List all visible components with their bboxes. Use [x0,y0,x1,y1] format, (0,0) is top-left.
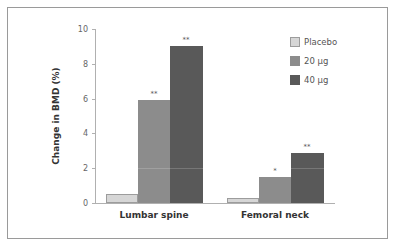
significance-marker: ** [138,90,170,98]
y-tick [92,168,96,169]
bar-placebo-lumbar-spine [106,194,138,203]
bar-40ug-femoral-neck [291,153,324,203]
legend-swatch-20ug [290,56,300,66]
legend-item-20ug: 20 µg [290,51,337,70]
y-axis [95,29,96,203]
legend-label-placebo: Placebo [304,37,337,47]
y-tick [92,203,96,204]
gridline [106,168,326,169]
legend-label-20ug: 20 µg [304,56,328,66]
y-tick-label: 10 [68,25,88,34]
category-label-femoral-neck: Femoral neck [220,210,330,220]
y-tick-label: 0 [68,199,88,208]
y-tick-label: 8 [68,59,88,68]
y-tick-label: 6 [68,94,88,103]
plot-area: Change in BMD (%) Lumbar spine Femoral n… [0,0,393,249]
legend-swatch-40ug [290,75,300,85]
legend-item-40ug: 40 µg [290,70,337,89]
bar-40ug-lumbar-spine [170,46,203,203]
significance-marker: ** [291,143,323,151]
bar-20ug-femoral-neck [259,177,291,203]
y-tick-label: 2 [68,164,88,173]
x-axis [95,203,335,204]
y-tick [92,133,96,134]
y-tick [92,64,96,65]
bar-20ug-lumbar-spine [138,100,170,203]
legend: Placebo 20 µg 40 µg [290,32,337,89]
y-axis-label: Change in BMD (%) [51,67,61,164]
legend-swatch-placebo [290,37,300,47]
category-label-lumbar-spine: Lumbar spine [99,210,209,220]
bar-placebo-femoral-neck [227,198,259,203]
y-tick [92,29,96,30]
y-tick [92,99,96,100]
y-tick-label: 4 [68,129,88,138]
legend-item-placebo: Placebo [290,32,337,51]
legend-label-40ug: 40 µg [304,75,328,85]
significance-marker: ** [170,36,202,44]
